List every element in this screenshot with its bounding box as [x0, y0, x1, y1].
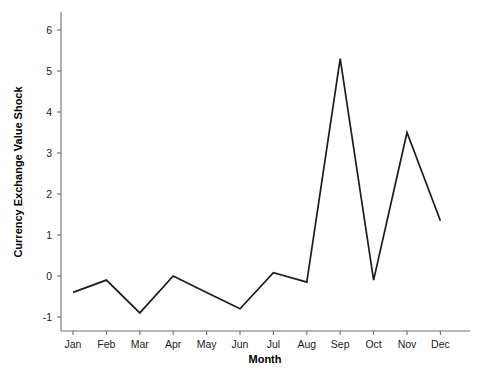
x-axis-title: Month	[249, 353, 282, 365]
x-tick-label: Jan	[65, 338, 82, 350]
x-tick-label: Apr	[165, 338, 182, 350]
x-tick-label: Jul	[267, 338, 280, 350]
y-tick-label: 2	[46, 188, 52, 200]
y-tick-label: 1	[46, 229, 52, 241]
x-tick-label: Sep	[331, 338, 350, 350]
y-tick-label: 3	[46, 147, 52, 159]
y-tick-label: -1	[43, 311, 52, 323]
line-chart: -10123456 JanFebMarAprMayJunJulAugSepOct…	[0, 0, 484, 386]
x-tick-label: Aug	[297, 338, 316, 350]
y-tick-label: 4	[46, 106, 52, 118]
chart-background	[0, 0, 484, 386]
y-tick-label: 6	[46, 24, 52, 36]
x-tick-label: Feb	[97, 338, 115, 350]
chart-container: -10123456 JanFebMarAprMayJunJulAugSepOct…	[0, 0, 484, 386]
x-tick-label: May	[197, 338, 218, 350]
x-tick-label: Dec	[431, 338, 450, 350]
x-tick-label: Mar	[131, 338, 150, 350]
y-tick-label: 5	[46, 65, 52, 77]
x-tick-label: Nov	[398, 338, 417, 350]
x-tick-label: Oct	[365, 338, 381, 350]
x-tick-label: Jun	[232, 338, 249, 350]
y-tick-label: 0	[46, 270, 52, 282]
y-axis-title: Currency Exchange Value Shock	[12, 86, 24, 258]
